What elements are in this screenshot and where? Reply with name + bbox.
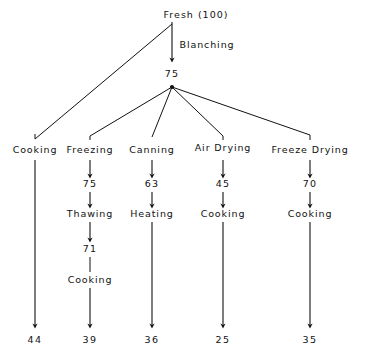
terminal-value-cooking: 44 <box>28 335 43 345</box>
terminal-value-freeze-drying: 35 <box>303 335 318 345</box>
edge-label-blanching: Blanching <box>179 40 234 50</box>
node-method-canning: Canning <box>129 145 175 155</box>
node-airdrying-cooking: Cooking <box>201 209 246 219</box>
node-freezedrying-cooking: Cooking <box>288 209 333 219</box>
diagram-canvas: Fresh (100) Blanching 75 Cooking Freezin… <box>0 0 370 360</box>
node-freezedrying-value-70: 70 <box>303 179 317 189</box>
node-fresh: Fresh (100) <box>164 10 229 20</box>
edge-fresh-to-cooking <box>35 24 172 139</box>
edge-75-to-freezing <box>90 87 172 136</box>
node-freezing-value-75: 75 <box>83 179 97 189</box>
terminal-value-air-drying: 25 <box>216 335 231 345</box>
node-method-cooking: Cooking <box>13 145 58 155</box>
node-airdrying-value-45: 45 <box>216 179 230 189</box>
terminal-value-canning: 36 <box>145 335 160 345</box>
edge-75-to-canning <box>152 87 172 137</box>
node-method-air-drying: Air Drying <box>195 143 252 153</box>
node-method-freezing: Freezing <box>66 145 113 155</box>
node-blanched-75: 75 <box>165 69 179 79</box>
node-heating: Heating <box>130 209 174 219</box>
node-method-freeze-drying: Freeze Drying <box>271 145 348 155</box>
node-canning-value-63: 63 <box>145 179 159 189</box>
edge-75-to-airdrying <box>172 87 223 136</box>
node-freezing-cooking: Cooking <box>68 275 113 285</box>
node-thawed-value-71: 71 <box>83 244 97 254</box>
node-thawing: Thawing <box>67 209 113 219</box>
edge-75-to-freezedrying <box>172 87 310 135</box>
terminal-value-freezing: 39 <box>83 335 98 345</box>
